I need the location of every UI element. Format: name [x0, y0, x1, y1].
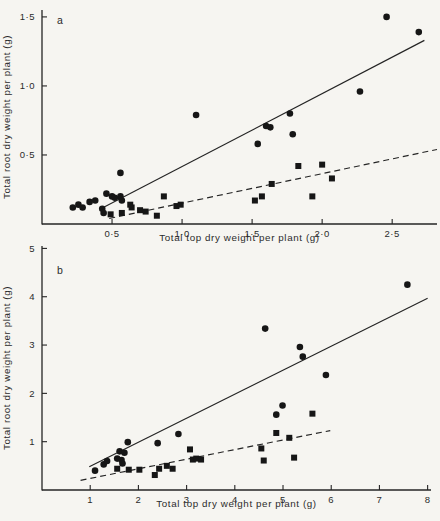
data-point-square-b — [261, 458, 267, 464]
data-point-square-b — [198, 457, 204, 463]
data-point-circle-b — [175, 431, 182, 438]
x-tick-label-b: 1 — [87, 494, 93, 505]
y-tick-label-b: 2 — [29, 388, 35, 399]
y-tick-label-a: 1·5 — [20, 11, 35, 22]
data-point-circle-b — [121, 449, 128, 456]
x-axis-label-b: Total top dry weight per plant (g) — [156, 498, 316, 509]
y-tick-label-b: 3 — [29, 339, 35, 350]
data-point-circle-b — [92, 467, 99, 474]
data-point-circle-a — [289, 131, 296, 138]
data-point-circle-a — [287, 110, 294, 117]
data-point-square-a — [259, 193, 265, 199]
y-axis-label-a: Total root dry weight per plant (g) — [1, 35, 12, 199]
data-point-square-b — [187, 446, 193, 452]
data-point-circle-a — [100, 210, 107, 217]
data-point-square-a — [329, 175, 335, 181]
y-tick-label-a: 0·5 — [20, 149, 35, 160]
x-tick-label-b: 8 — [425, 494, 431, 505]
data-point-square-a — [309, 193, 315, 199]
data-point-circle-a — [103, 190, 110, 197]
data-point-circle-a — [119, 197, 126, 204]
data-point-square-a — [137, 207, 143, 213]
x-axis-label-a: Total top dry weight per plant (g) — [159, 232, 319, 243]
data-point-circle-a — [415, 29, 422, 36]
panel-letter-b: b — [57, 264, 63, 276]
data-point-circle-a — [112, 194, 119, 201]
x-tick-label-b: 2 — [136, 494, 142, 505]
data-point-square-a — [295, 163, 301, 169]
x-tick-label-b: 7 — [377, 494, 383, 505]
x-tick-label-b: 6 — [328, 494, 334, 505]
data-point-circle-b — [404, 281, 411, 288]
data-point-square-b — [258, 445, 264, 451]
data-point-square-b — [126, 467, 132, 473]
data-point-circle-a — [254, 141, 261, 148]
data-point-circle-b — [323, 372, 330, 379]
y-axis-label-b: Total root dry weight per plant (g) — [1, 286, 12, 450]
data-point-circle-b — [273, 411, 280, 418]
data-point-square-b — [309, 411, 315, 417]
data-point-circle-a — [92, 197, 99, 204]
figure-svg: 0·51·01·52·02·50·51·01·5Total top dry we… — [0, 0, 440, 521]
data-point-circle-a — [117, 170, 124, 177]
data-point-circle-b — [154, 440, 161, 447]
data-point-square-a — [252, 198, 258, 204]
data-point-square-a — [143, 209, 149, 215]
data-point-circle-a — [193, 112, 200, 119]
y-tick-label-a: 1·0 — [20, 80, 35, 91]
data-point-circle-a — [383, 14, 390, 21]
y-tick-label-b: 4 — [29, 291, 35, 302]
data-point-circle-b — [119, 460, 126, 467]
data-point-circle-b — [104, 458, 111, 465]
x-tick-label-a: 0·5 — [104, 228, 119, 239]
data-point-circle-a — [267, 124, 274, 131]
data-point-square-a — [269, 181, 275, 187]
data-point-square-b — [273, 430, 279, 436]
data-point-circle-b — [297, 344, 304, 351]
data-point-square-a — [154, 213, 160, 219]
y-tick-label-b: 1 — [29, 436, 35, 447]
data-point-circle-a — [357, 88, 364, 95]
data-point-circle-a — [79, 204, 86, 211]
x-tick-label-a: 2·5 — [385, 228, 400, 239]
data-point-circle-a — [86, 199, 93, 206]
data-point-square-b — [136, 467, 142, 473]
solid-fit-line-b — [89, 298, 427, 467]
data-point-circle-b — [299, 353, 306, 360]
data-point-square-b — [170, 466, 176, 472]
data-point-circle-b — [125, 439, 132, 446]
scatter-figure: 0·51·01·52·02·50·51·01·5Total top dry we… — [0, 0, 440, 521]
data-point-circle-a — [70, 204, 77, 211]
data-point-square-a — [319, 162, 325, 168]
data-point-square-a — [129, 204, 135, 210]
data-point-square-a — [108, 211, 114, 217]
data-point-square-b — [152, 472, 158, 478]
panel-letter-a: a — [57, 14, 63, 26]
data-point-square-a — [119, 210, 125, 216]
data-point-square-b — [291, 455, 297, 461]
data-point-square-b — [114, 466, 120, 472]
data-point-circle-b — [279, 402, 286, 409]
data-point-square-b — [164, 463, 170, 469]
data-point-square-a — [161, 193, 167, 199]
data-point-square-b — [156, 466, 162, 472]
data-point-square-b — [286, 435, 292, 441]
y-tick-label-b: 5 — [29, 243, 35, 254]
solid-fit-line-a — [101, 40, 425, 208]
data-point-circle-b — [262, 325, 269, 332]
data-point-square-a — [178, 202, 184, 208]
